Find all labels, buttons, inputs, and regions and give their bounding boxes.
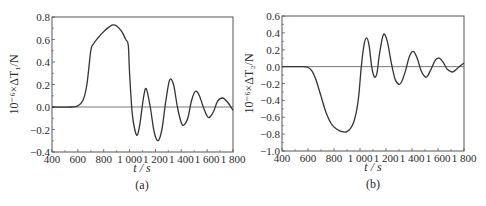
y-tick-label: −0.4	[260, 94, 280, 106]
series-line	[52, 25, 233, 141]
chart-b: 4006008001 0001 2001 4001 6001 800−1.0−0…	[242, 10, 477, 191]
x-tick-label: 1 600	[426, 152, 451, 164]
y-tick-label: −0.2	[30, 124, 50, 136]
chart-a: 4006008001 0001 2001 4001 6001 800−0.4−0…	[7, 11, 246, 192]
y-tick-label: 0.6	[36, 34, 50, 46]
figure-canvas: 4006008001 0001 2001 4001 6001 800−0.4−0…	[0, 0, 486, 206]
plot-frame	[282, 16, 464, 151]
x-tick-label: 1 400	[169, 153, 194, 165]
y-tick-label: 0.2	[266, 44, 280, 56]
x-tick-label: 800	[95, 153, 112, 165]
y-tick-label: 0.6	[266, 10, 280, 22]
x-tick-label: 800	[326, 152, 343, 164]
x-tick-label: 600	[70, 153, 87, 165]
y-axis-label: 10⁻⁶×ΔT₂/N	[242, 53, 256, 114]
x-tick-label: 1 800	[452, 152, 477, 164]
y-tick-label: −1.0	[260, 145, 280, 157]
series-line	[282, 34, 464, 132]
y-axis-label: 10⁻⁶×ΔT₁/N	[7, 54, 21, 115]
x-tick-label: 1 400	[400, 152, 425, 164]
y-tick-label: 0.4	[266, 27, 280, 39]
y-tick-label: −0.2	[260, 78, 280, 90]
y-tick-label: 0.0	[266, 61, 280, 73]
y-tick-label: 0.8	[36, 11, 50, 23]
panel-label: (a)	[135, 178, 148, 192]
panel-label: (b)	[366, 177, 380, 191]
y-tick-label: 0.2	[36, 79, 50, 91]
y-tick-label: −0.4	[30, 146, 50, 158]
x-axis-label: t / s	[364, 160, 382, 174]
x-tick-label: 1 600	[195, 153, 220, 165]
y-tick-label: 0.4	[36, 56, 50, 68]
y-tick-label: −0.8	[260, 128, 280, 140]
plot-frame	[52, 17, 233, 152]
y-tick-label: 0.0	[36, 101, 50, 113]
x-tick-label: 1 800	[221, 153, 246, 165]
x-axis-label: t / s	[133, 161, 151, 175]
y-tick-label: −0.6	[260, 111, 280, 123]
x-tick-label: 600	[300, 152, 317, 164]
